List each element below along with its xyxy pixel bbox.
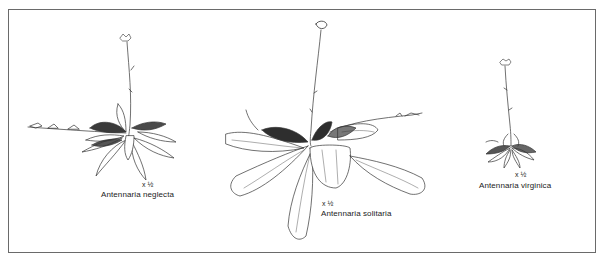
species-label-neglecta: Antennaria neglecta xyxy=(101,190,174,199)
plant-virginica xyxy=(486,59,536,168)
scale-label-neglecta: x ½ xyxy=(142,181,153,188)
scale-label-virginica: x ½ xyxy=(515,171,526,178)
species-label-virginica: Antennaria virginica xyxy=(479,181,551,190)
scale-label-solitaria: x ½ xyxy=(322,200,333,207)
species-label-solitaria: Antennaria solitaria xyxy=(321,209,391,218)
plant-neglecta xyxy=(28,34,176,180)
botanical-illustrations xyxy=(0,0,605,262)
